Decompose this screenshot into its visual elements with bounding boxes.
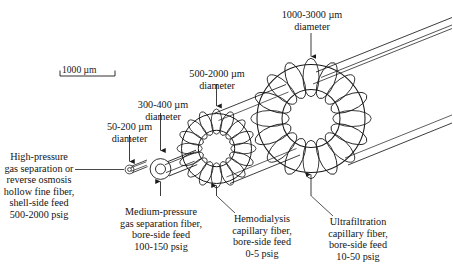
caption-hemodialysis: Hemodialysis capillary fiber, bore-side …: [216, 213, 308, 259]
caption-line: bore-side feed: [106, 229, 216, 241]
diameter-value: 500-2000 µm: [165, 68, 269, 80]
diameter-label-ultrafiltration: 1000-3000 µm diameter: [259, 9, 365, 32]
caption-line: High-pressure: [1, 151, 77, 163]
caption-medium-pressure: Medium-pressure gas separation fiber, bo…: [106, 206, 216, 252]
diameter-label-medium-pressure: 300-400 µm diameter: [111, 99, 215, 122]
caption-line: Medium-pressure: [106, 206, 216, 218]
caption-line: 0-5 psig: [216, 248, 308, 260]
caption-line: hollow fine fiber,: [1, 186, 77, 198]
diameter-word: diameter: [111, 111, 215, 123]
diameter-value: 50-200 µm: [79, 121, 180, 133]
caption-line: bore-side feed: [216, 236, 308, 248]
caption-line: shell-side feed: [1, 197, 77, 209]
caption-line: bore-side feed: [311, 239, 405, 251]
caption-line: 500-2000 psig: [1, 209, 77, 221]
caption-line: 10-50 psig: [311, 251, 405, 263]
caption-line: 100-150 psig: [106, 241, 216, 253]
caption-hollow-fine: High-pressure gas separation or reverse …: [1, 151, 77, 220]
fiber-hollow-fine: [125, 160, 148, 174]
diameter-label-hollow-fine: 50-200 µm diameter: [79, 121, 180, 144]
caption-line: gas separation fiber,: [106, 218, 216, 230]
caption-line: gas separation or: [1, 163, 77, 175]
diameter-value: 300-400 µm: [111, 99, 215, 111]
caption-ultrafiltration: Ultrafiltration capillary fiber, bore-si…: [311, 216, 405, 262]
diameter-label-hemodialysis: 500-2000 µm diameter: [165, 68, 269, 91]
caption-line: Hemodialysis: [216, 213, 308, 225]
caption-line: Ultrafiltration: [311, 216, 405, 228]
diameter-word: diameter: [259, 21, 365, 33]
caption-line: reverse osmosis: [1, 174, 77, 186]
diameter-word: diameter: [165, 80, 269, 92]
diameter-value: 1000-3000 µm: [259, 9, 365, 21]
diameter-word: diameter: [79, 133, 180, 145]
caption-line: capillary fiber,: [216, 225, 308, 237]
caption-line: capillary fiber,: [311, 228, 405, 240]
scale-bar-label: 1000 µm: [62, 64, 97, 75]
